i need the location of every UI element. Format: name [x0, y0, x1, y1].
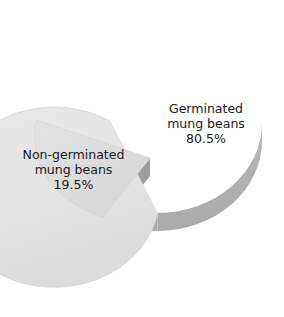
pie-chart-figure: Germinated mung beans 80.5% Non-germinat…: [0, 0, 284, 317]
pie-chart-graphic: [0, 0, 284, 317]
